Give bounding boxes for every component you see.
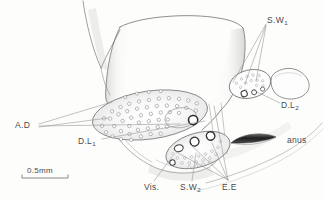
figure-panel: S.W1 D.L2 A.D D.L1 Vis. S.W2 E.E anus 0.…: [0, 0, 324, 199]
dl2-lobe: [271, 68, 309, 99]
label-anus: anus: [287, 136, 307, 145]
label-dl2: D.L2: [281, 101, 299, 110]
label-sw2: S.W2: [180, 183, 201, 192]
label-dl1: D.L1: [78, 137, 96, 146]
label-sw1-sub: 1: [284, 19, 288, 26]
label-dl1-text: D.L: [78, 136, 92, 146]
label-sw1-text: S.W: [267, 15, 284, 25]
label-dl1-sub: 1: [92, 140, 96, 147]
label-anus-text: anus: [287, 135, 307, 145]
anus-aperture: [231, 134, 276, 143]
scale-bar: [22, 175, 68, 179]
label-vis: Vis.: [144, 183, 159, 192]
label-vis-text: Vis.: [144, 182, 159, 192]
label-ee-text: E.E: [222, 182, 237, 192]
label-sw1: S.W1: [267, 16, 288, 25]
dl2-lobe-outline: [271, 68, 309, 99]
label-ad-text: A.D: [15, 120, 30, 130]
scale-bar-label: 0.5mm: [27, 167, 53, 175]
label-sw2-sub: 2: [197, 186, 201, 193]
label-ad: A.D: [15, 121, 30, 130]
label-dl2-text: D.L: [281, 100, 295, 110]
segment-dorsal-edge: [120, 16, 243, 28]
label-dl2-sub: 2: [295, 104, 299, 111]
label-ee: E.E: [222, 183, 237, 192]
label-sw2-text: S.W: [180, 182, 197, 192]
